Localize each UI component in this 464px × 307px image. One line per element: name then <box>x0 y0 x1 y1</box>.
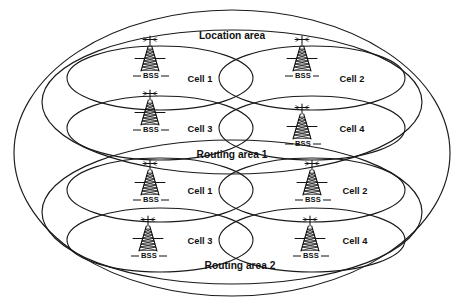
cell-label-ra2-cell2: Cell 2 <box>343 186 368 196</box>
diagram-canvas: Location area Cell 1 BSS Cell 2 BSS Cell… <box>0 0 464 307</box>
network-coverage-diagram: Location area Cell 1 BSS Cell 2 BSS Cell… <box>0 0 464 307</box>
cell-ellipse-ra1-cell2 <box>219 46 405 110</box>
radio-tower-icon-ra1-cell1 <box>135 36 165 71</box>
bss-label-ra1-cell4: BSS <box>295 139 311 148</box>
routing-area-1-label: Routing area 1 <box>197 149 268 160</box>
bss-label-ra1-cell3: BSS <box>143 125 159 134</box>
cell-label-ra1-cell1: Cell 1 <box>188 74 213 84</box>
bss-label-ra1-cell1: BSS <box>143 71 159 80</box>
radio-tower-icon-ra1-cell3 <box>135 90 165 125</box>
location-area-label: Location area <box>199 30 266 41</box>
bss-label-ra2-cell2: BSS <box>305 195 321 204</box>
routing-area-2-label: Routing area 2 <box>205 260 276 271</box>
cell-label-ra1-cell3: Cell 3 <box>188 124 213 134</box>
bss-label-ra2-cell4: BSS <box>303 251 319 260</box>
bss-label-ra2-cell3: BSS <box>141 251 157 260</box>
cell-label-ra2-cell3: Cell 3 <box>188 236 213 246</box>
bss-label-ra1-cell2: BSS <box>295 71 311 80</box>
cell-ellipse-ra2-cell1 <box>67 158 253 222</box>
cell-label-ra2-cell1: Cell 1 <box>188 186 213 196</box>
cell-ellipse-ra1-cell1 <box>67 46 253 110</box>
cell-label-ra1-cell4: Cell 4 <box>340 124 366 134</box>
cell-label-ra1-cell2: Cell 2 <box>340 74 365 84</box>
cell-label-ra2-cell4: Cell 4 <box>343 236 369 246</box>
bss-dashes <box>131 76 331 256</box>
radio-tower-icon-ra1-cell2 <box>287 36 317 71</box>
bss-label-ra2-cell1: BSS <box>143 195 159 204</box>
